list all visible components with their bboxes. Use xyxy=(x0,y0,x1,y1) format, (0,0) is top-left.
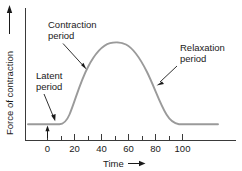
annotation-contraction-period: Contraction period xyxy=(48,19,97,70)
latent-period-leader-line xyxy=(44,94,54,117)
x-axis-minor-ticks xyxy=(61,136,169,141)
contraction-period-label-line1: Contraction xyxy=(48,19,97,30)
x-tick-label-100: 100 xyxy=(175,143,191,154)
x-tick-label-0: 0 xyxy=(45,143,50,154)
latent-period-label-line1: Latent xyxy=(36,70,63,81)
latent-period-label-line2: period xyxy=(36,81,62,92)
chart-canvas: 0 20 40 60 80 100 Contraction period Lat… xyxy=(0,0,242,171)
x-tick-label-20: 20 xyxy=(69,143,80,154)
y-axis-arrow-up-icon xyxy=(7,5,12,34)
annotation-relaxation-period: Relaxation period xyxy=(157,42,225,86)
x-axis-title: Time xyxy=(103,158,124,169)
x-tick-label-60: 60 xyxy=(123,143,134,154)
y-axis-title: Force of contraction xyxy=(4,51,15,135)
x-tick-label-80: 80 xyxy=(150,143,161,154)
x-axis-title-group: Time xyxy=(103,158,146,169)
stimulus-marker-arrow-icon xyxy=(45,126,49,138)
contraction-period-label-line2: period xyxy=(48,30,74,41)
relaxation-period-label-line1: Relaxation xyxy=(180,42,225,53)
relaxation-period-label-line2: period xyxy=(180,53,206,64)
muscle-twitch-chart: 0 20 40 60 80 100 Contraction period Lat… xyxy=(0,0,242,171)
relaxation-period-leader-line xyxy=(160,66,177,82)
contraction-period-leader-line xyxy=(63,44,84,67)
annotation-latent-period: Latent period xyxy=(36,70,63,121)
x-axis-arrow-right-icon-head xyxy=(139,161,146,166)
x-tick-label-40: 40 xyxy=(96,143,107,154)
latent-period-arrowhead xyxy=(51,114,55,121)
